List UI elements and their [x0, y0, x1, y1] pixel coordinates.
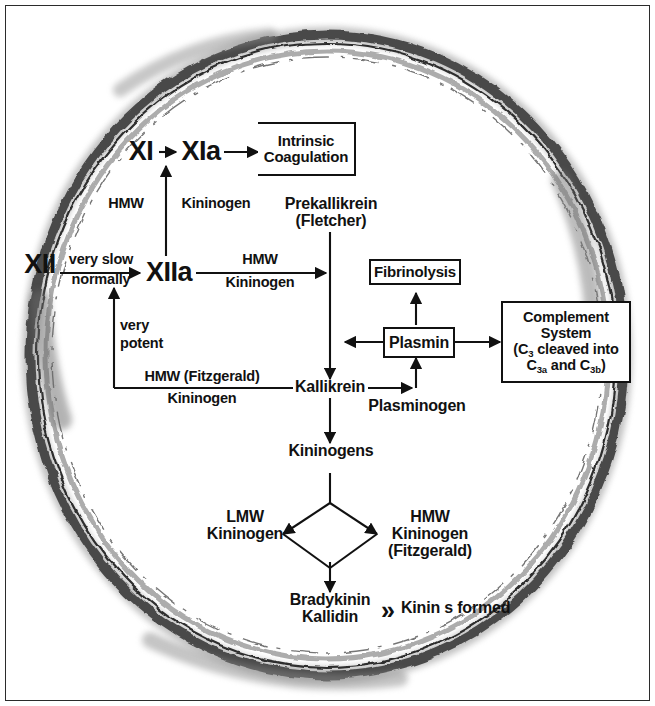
- lmw-kininogen-line2: Kininogen: [207, 525, 283, 542]
- edge-label-xii-normally: normally: [62, 272, 140, 288]
- lmw-kininogen-line1: LMW: [226, 508, 264, 525]
- complement-line2: System: [541, 325, 591, 341]
- edge-label-xiia-to-xi-hmw: HMW: [96, 196, 156, 212]
- edge-label-xii-very-slow: very slow: [62, 252, 140, 268]
- edge-label-xiia-to-xi-kininogen: Kininogen: [172, 196, 260, 212]
- box-intrinsic-coagulation: Intrinsic Coagulation: [258, 122, 356, 176]
- node-lmw-kininogen: LMW Kininogen: [205, 509, 285, 543]
- box-fibrinolysis: Fibrinolysis: [369, 259, 461, 285]
- node-kinins-formed: Kinin s formed: [401, 600, 537, 617]
- prekallikrein-alias: (Fletcher): [296, 212, 367, 229]
- edge-label-fitzgerald-kininogen: Kininogen: [112, 391, 292, 407]
- node-factor-xia: XIa: [172, 137, 230, 166]
- node-factor-xi: XI: [120, 137, 162, 166]
- diagram-canvas: XII XI XIa XIIa Prekallikrein (Fletcher)…: [0, 0, 655, 706]
- edge-label-potent: potent: [120, 336, 190, 352]
- node-plasminogen: Plasminogen: [365, 398, 469, 415]
- node-factor-xiia: XIIa: [138, 258, 200, 287]
- hmw-kininogen-line2: Kininogen: [392, 525, 468, 542]
- complement-line4: C3a and C3b): [526, 357, 605, 373]
- intrinsic-coagulation-line2: Coagulation: [264, 148, 348, 165]
- node-factor-xii: XII: [18, 250, 62, 279]
- hmw-kininogen-alias: (Fitzgerald): [388, 542, 472, 559]
- node-bradykinin-kallidin: Bradykinin Kallidin: [282, 592, 378, 626]
- edge-label-very: very: [120, 318, 182, 334]
- prekallikrein-label: Prekallikrein: [285, 195, 378, 212]
- node-kallikrein: Kallikrein: [287, 379, 373, 396]
- edge-label-hmw-fitzgerald: HMW (Fitzgerald): [112, 369, 292, 385]
- edge-label-xiia-kininogen: Kininogen: [208, 275, 312, 291]
- hmw-kininogen-line1: HMW: [410, 508, 449, 525]
- node-prekallikrein: Prekallikrein (Fletcher): [276, 196, 386, 230]
- intrinsic-coagulation-line1: Intrinsic: [278, 132, 335, 149]
- bradykinin-label: Bradykinin: [290, 591, 371, 608]
- node-hmw-kininogen: HMW Kininogen (Fitzgerald): [379, 509, 481, 560]
- node-kininogens: Kininogens: [285, 443, 377, 460]
- complement-line1: Complement: [523, 309, 609, 325]
- kinins-marker-icon: »: [381, 598, 395, 623]
- edge-label-xiia-hmw: HMW: [212, 252, 308, 268]
- kallidin-label: Kallidin: [302, 608, 358, 625]
- complement-line3: (C3 cleaved into: [513, 341, 618, 357]
- box-plasmin: Plasmin: [383, 327, 455, 358]
- box-complement-system: Complement System (C3 cleaved into C3a a…: [501, 301, 631, 383]
